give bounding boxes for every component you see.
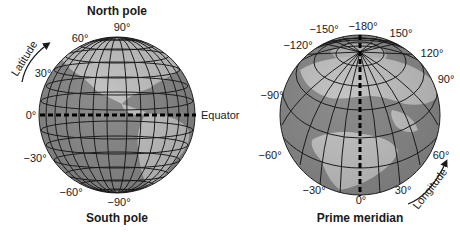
lon-label-neg90: −90° (260, 89, 283, 101)
lat-label-neg60: −60° (59, 186, 82, 198)
lat-label-90: 90° (114, 21, 131, 33)
lon-label-neg120: −120° (283, 39, 312, 51)
lon-label-0: 0° (356, 194, 367, 206)
south-pole-title: South pole (86, 211, 148, 225)
equator-label: Equator (201, 109, 240, 121)
latitude-longitude-diagram: North pole South pole 90° 60° 30° 0° −30… (0, 0, 460, 235)
lat-label-neg90: −90° (107, 196, 130, 208)
lat-label-0: 0° (26, 109, 37, 121)
lon-label-60: 60° (433, 149, 450, 161)
lon-label-neg30: −30° (302, 184, 325, 196)
latitude-globe: North pole South pole 90° 60° 30° 0° −30… (9, 4, 240, 225)
lon-label-neg180: −180° (348, 20, 377, 32)
lon-label-120: 120° (421, 47, 444, 59)
lon-label-150: 150° (390, 27, 413, 39)
lon-label-neg150: −150° (309, 23, 338, 35)
north-pole-title: North pole (87, 4, 147, 18)
lat-label-30: 30° (35, 67, 52, 79)
lat-label-60: 60° (72, 32, 89, 44)
lon-label-neg60: −60° (258, 149, 281, 161)
lon-label-30: 30° (395, 184, 412, 196)
prime-meridian-title: Prime meridian (317, 211, 404, 225)
lon-label-90: 90° (438, 73, 455, 85)
lat-label-neg30: −30° (23, 152, 46, 164)
longitude-globe: Prime meridian −180° −150° −120° −90° −6… (258, 20, 460, 225)
